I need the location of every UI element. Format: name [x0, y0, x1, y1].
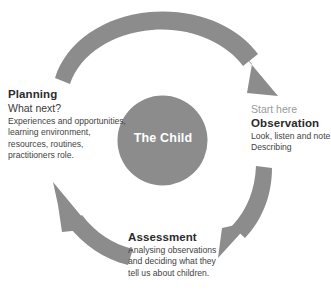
planning-line: Experiences and opportunities,: [8, 116, 128, 127]
stage-planning: Planning What next? Experiences and oppo…: [8, 88, 128, 162]
planning-lead: What next?: [8, 102, 128, 115]
start-here-label: Start here: [251, 103, 331, 116]
observation-line: Look, listen and note.: [251, 131, 331, 142]
assessment-line: and deciding what they: [128, 256, 248, 267]
planning-line: learning environment,: [8, 127, 128, 138]
observation-line: Describing: [251, 142, 331, 153]
stage-assessment: Assessment Analysing observations and de…: [128, 231, 248, 279]
planning-heading: Planning: [8, 88, 128, 100]
center-circle-label: The Child: [118, 131, 208, 145]
assessment-heading: Assessment: [128, 231, 248, 243]
assessment-line: tell us about children.: [128, 268, 248, 279]
assessment-line: Analysing observations: [128, 245, 248, 256]
planning-line: practitioners role.: [8, 150, 128, 161]
cycle-diagram: The Child Planning What next? Experience…: [0, 0, 331, 296]
observation-heading: Observation: [251, 117, 331, 129]
stage-observation: Start here Observation Look, listen and …: [251, 103, 331, 154]
planning-line: resources, routines,: [8, 139, 128, 150]
assessment-to-planning-arrow: [53, 182, 133, 265]
planning-to-observation-arrow: [55, 11, 278, 96]
